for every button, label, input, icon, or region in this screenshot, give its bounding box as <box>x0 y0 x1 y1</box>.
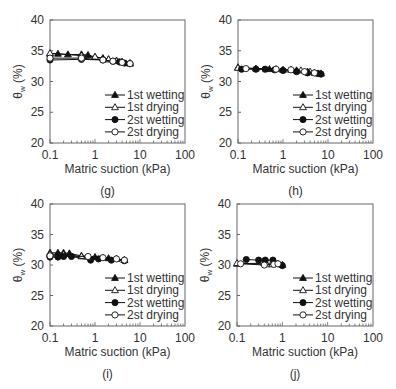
x-tick-label: 0.1 <box>229 331 246 345</box>
x-tick-label: 10 <box>321 331 335 345</box>
y-axis-label: θw (%) <box>11 248 27 282</box>
chart-panel-i: 20253035400.1110100Matric suction (kPa)θ… <box>0 184 200 388</box>
x-axis-label: Matric suction (kPa) <box>64 345 170 359</box>
y-axis-label: θw (%) <box>11 64 27 98</box>
y-tick-label: 30 <box>218 258 232 272</box>
y-tick-label: 35 <box>219 44 233 58</box>
legend: 1st wetting1st drying2st wetting2st dryi… <box>293 88 372 139</box>
legend: 1st wetting1st drying2st wetting2st dryi… <box>105 271 184 322</box>
legend-entry: 2st drying <box>315 125 367 139</box>
x-axis-label: Matric suction (kPa) <box>64 162 170 176</box>
x-axis-label: Matric suction (kPa) <box>252 345 358 359</box>
y-tick-label: 25 <box>31 105 45 119</box>
y-tick-label: 35 <box>218 228 232 242</box>
x-tick-label: 0.1 <box>42 331 59 345</box>
x-tick-label: 0.1 <box>42 148 59 162</box>
y-tick-label: 25 <box>31 289 45 303</box>
y-axis-label: θw (%) <box>199 64 215 98</box>
y-axis-label: θw (%) <box>198 248 214 282</box>
x-tick-label: 10 <box>133 148 147 162</box>
x-axis-label: Matric suction (kPa) <box>252 162 358 176</box>
legend: 1st wetting1st drying2st wetting2st dryi… <box>105 88 184 139</box>
x-tick-label: 10 <box>321 148 335 162</box>
y-tick-label: 25 <box>219 105 233 119</box>
x-tick-label: 1 <box>92 331 99 345</box>
y-tick-label: 25 <box>218 289 232 303</box>
panel-caption: (j) <box>290 367 301 381</box>
x-tick-label: 10 <box>133 331 147 345</box>
x-tick-label: 100 <box>363 148 383 162</box>
x-tick-label: 100 <box>363 331 383 345</box>
chart-panel-g: 20253035400.1110100Matric suction (kPa)θ… <box>0 0 200 204</box>
legend-entry: 2st drying <box>315 308 367 322</box>
panel-caption: (i) <box>102 367 113 381</box>
y-tick-label: 35 <box>31 228 45 242</box>
x-tick-label: 0.1 <box>230 148 247 162</box>
x-tick-label: 1 <box>280 148 287 162</box>
chart-panel-j: 20253035400.1110100Matric suction (kPa)θ… <box>188 184 388 388</box>
chart-panel-h: 20253035400.1110100Matric suction (kPa)θ… <box>188 0 388 204</box>
legend: 1st wetting1st drying2st wetting2st dryi… <box>293 271 372 322</box>
y-tick-label: 40 <box>219 13 233 27</box>
y-tick-label: 30 <box>219 75 233 89</box>
y-tick-label: 40 <box>218 197 232 211</box>
x-tick-label: 1 <box>279 331 286 345</box>
y-tick-label: 30 <box>31 258 45 272</box>
x-tick-label: 1 <box>92 148 99 162</box>
y-tick-label: 30 <box>31 75 45 89</box>
legend-entry: 2st drying <box>127 125 179 139</box>
y-tick-label: 40 <box>31 197 45 211</box>
y-tick-label: 35 <box>31 44 45 58</box>
y-tick-label: 40 <box>31 13 45 27</box>
legend-entry: 2st drying <box>127 308 179 322</box>
